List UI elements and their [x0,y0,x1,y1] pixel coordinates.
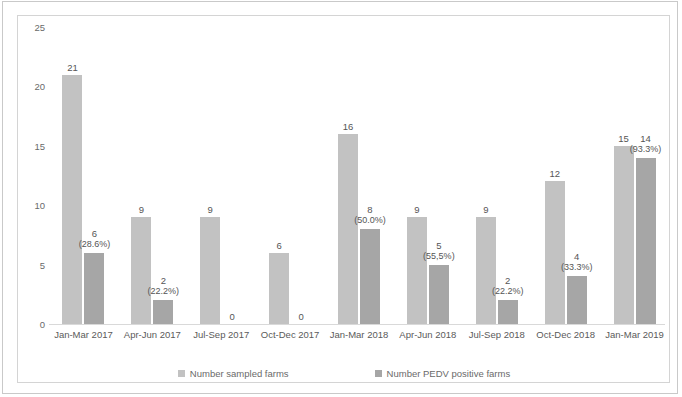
x-axis-category-label: Jul-Sep 2018 [460,329,534,340]
legend-label: Number PEDV positive farms [387,368,511,379]
page-frame: 0510152025 216(28.6%)Jan-Mar 201792(22.2… [2,1,678,394]
bar-value-label: 0 [271,311,331,322]
bar-percent: (50.0%) [340,215,400,226]
bar-value-label: 12 [525,168,585,179]
bar-group: 95(55,5%)Apr-Jun 2018 [393,27,462,324]
bar-value-label: 9 [111,204,171,215]
bar-value: 9 [483,204,488,215]
legend-swatch-icon [375,370,382,377]
y-axis-tick-0: 0 [15,319,45,330]
bar-value-label: 5(55,5%) [409,240,469,262]
bar-value: 8 [367,204,372,215]
bar-value-label: 2(22.2%) [133,275,193,297]
bar-positive [498,300,518,324]
x-axis-category-label: Apr-Jun 2017 [115,329,189,340]
bar-positive [567,276,587,324]
bar-value: 2 [161,275,166,286]
y-axis-tick-10: 10 [15,200,45,211]
bar-group: 216(28.6%)Jan-Mar 2017 [49,27,118,324]
bar-percent: (22.2%) [133,286,193,297]
y-axis-tick-20: 20 [15,81,45,92]
bar-percent: (33.3%) [547,262,607,273]
plot-area: 216(28.6%)Jan-Mar 201792(22.2%)Apr-Jun 2… [49,27,669,324]
bar-value: 4 [574,251,579,262]
bar-sampled [62,75,82,324]
legend-label: Number sampled farms [190,368,289,379]
y-axis-tick-25: 25 [15,22,45,33]
chart-legend: Number sampled farmsNumber PEDV positive… [3,368,682,379]
bar-percent: (93.3%) [616,144,676,155]
bar-value: 6 [92,228,97,239]
bar-value-label: 9 [387,204,447,215]
bar-positive [153,300,173,324]
bar-sampled [476,217,496,324]
bar-value: 21 [67,62,78,73]
bar-value: 0 [298,311,303,322]
x-axis-category-label: Oct-Dec 2018 [529,329,603,340]
x-axis-line [49,324,665,325]
legend-item[interactable]: Number PEDV positive farms [375,368,511,379]
x-axis-category-label: Jul-Sep 2017 [184,329,258,340]
bar-value-label: 0 [202,311,262,322]
bar-positive [360,229,380,324]
bar-sampled [338,134,358,324]
bar-group: 168(50.0%)Jan-Mar 2018 [325,27,394,324]
y-axis-tick-5: 5 [15,259,45,270]
bar-value: 9 [208,204,213,215]
legend-item[interactable]: Number sampled farms [178,368,289,379]
bar-positive [636,158,656,324]
bar-value-label: 21 [42,62,102,73]
bar-percent: (55,5%) [409,251,469,262]
bar-value-label: 9 [456,204,516,215]
y-axis-tick-15: 15 [15,140,45,151]
bar-value: 16 [343,121,354,132]
bar-percent: (28.6%) [64,239,124,250]
x-axis-category-label: Jan-Mar 2019 [598,329,672,340]
x-axis-category-label: Apr-Jun 2018 [391,329,465,340]
bar-sampled [131,217,151,324]
x-axis-category-label: Oct-Dec 2017 [253,329,327,340]
bar-group: 92(22.2%)Jul-Sep 2018 [462,27,531,324]
bar-percent: (22.2%) [478,286,538,297]
bar-value-label: 9 [180,204,240,215]
bar-value-label: 4(33.3%) [547,251,607,273]
bar-value: 0 [230,311,235,322]
bar-value-label: 14(93.3%) [616,133,676,155]
bar-positive [84,253,104,324]
x-axis-category-label: Jan-Mar 2018 [322,329,396,340]
bar-group: 90Jul-Sep 2017 [187,27,256,324]
bar-group: 60Oct-Dec 2017 [256,27,325,324]
bar-value: 14 [640,133,651,144]
bar-sampled [200,217,220,324]
bar-value: 2 [505,275,510,286]
bar-value: 9 [139,204,144,215]
bar-group: 124(33.3%)Oct-Dec 2018 [531,27,600,324]
y-axis: 0510152025 [11,27,45,324]
bar-value-label: 6(28.6%) [64,228,124,250]
bar-group: 92(22.2%)Apr-Jun 2017 [118,27,187,324]
bar-value: 9 [414,204,419,215]
bar-value: 6 [276,240,281,251]
bar-sampled [407,217,427,324]
bar-positive [429,265,449,324]
bar-value: 5 [436,240,441,251]
bar-value: 12 [549,168,560,179]
bar-group: 1514(93.3%)Jan-Mar 2019 [600,27,669,324]
bar-value-label: 6 [249,240,309,251]
bar-value-label: 16 [318,121,378,132]
legend-swatch-icon [178,370,185,377]
bar-sampled [614,146,634,324]
bar-value-label: 2(22.2%) [478,275,538,297]
x-axis-category-label: Jan-Mar 2017 [46,329,120,340]
